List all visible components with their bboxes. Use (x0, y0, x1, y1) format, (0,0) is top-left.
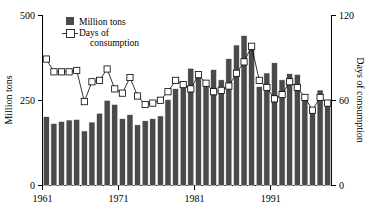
right-axis-title: Days of consumption (355, 57, 366, 143)
bar (43, 117, 49, 186)
data-point-marker (241, 59, 247, 65)
bar (180, 87, 186, 186)
data-point-marker (96, 77, 102, 83)
bar (256, 87, 262, 186)
bar (233, 45, 239, 185)
data-point-marker (271, 96, 277, 102)
data-point-marker (218, 87, 224, 93)
chart-legend: Million tons Days of consumption (62, 17, 139, 48)
data-point-marker (66, 69, 72, 75)
bar (218, 80, 224, 186)
bar (249, 49, 255, 185)
line-series-days-of-consumption (46, 46, 327, 110)
bar (119, 119, 125, 186)
bar (157, 116, 163, 186)
legend-swatch-million-tons (66, 17, 74, 25)
data-point-marker (119, 90, 125, 96)
bar (203, 81, 209, 185)
data-point-marker (195, 72, 201, 78)
bar (74, 119, 80, 185)
bar (150, 119, 156, 186)
data-point-marker (279, 91, 285, 97)
data-point-marker (89, 79, 95, 85)
data-point-marker (104, 66, 110, 72)
bar (142, 121, 148, 186)
data-point-marker (256, 77, 262, 83)
legend-swatch-days-of-consumption (67, 30, 75, 38)
bar (97, 113, 103, 185)
data-point-marker (294, 84, 300, 90)
bar (104, 100, 110, 185)
bar (165, 100, 171, 186)
bar (287, 74, 293, 186)
data-point-marker (180, 82, 186, 88)
data-point-marker (249, 43, 255, 49)
data-point-marker (43, 56, 49, 62)
bar (317, 90, 323, 185)
data-point-marker (317, 94, 323, 100)
x-axis-tick-label: 1971 (109, 193, 129, 204)
bar (211, 70, 217, 186)
data-point-marker (226, 83, 232, 89)
data-point-marker (81, 99, 87, 105)
bar (195, 73, 201, 186)
bar-series-million-tons (43, 35, 330, 185)
bar (112, 104, 118, 185)
chart-canvas: 500 250 0 Million tons 120 60 0 Days of … (0, 0, 367, 213)
left-axis-tick-label-250: 250 (20, 95, 35, 106)
data-point-marker (127, 74, 133, 80)
data-point-marker (287, 79, 293, 85)
data-point-marker (309, 107, 315, 113)
bar (173, 89, 179, 186)
legend-label-million-tons: Million tons (79, 17, 126, 27)
bar (309, 109, 315, 185)
x-axis-tick-label: 1991 (261, 193, 281, 204)
days-of-consumption-line (46, 46, 327, 110)
bar (271, 63, 277, 186)
right-axis-tick-label-60: 60 (339, 95, 349, 106)
bar (127, 115, 133, 186)
data-point-marker (325, 100, 331, 106)
x-axis-tick-label: 1961 (33, 193, 53, 204)
data-point-marker (165, 89, 171, 95)
right-axis-tick-label-0: 0 (339, 180, 344, 191)
legend-label-days-of-consumption-line1: Days of (79, 28, 110, 38)
bar (81, 131, 87, 186)
left-axis-title: Million tons (3, 75, 14, 124)
data-point-marker (112, 86, 118, 92)
right-axis-tick-label-120: 120 (339, 10, 354, 21)
data-point-marker (172, 77, 178, 83)
data-point-marker (142, 101, 148, 107)
data-point-marker (264, 84, 270, 90)
bar (325, 102, 331, 185)
data-point-marker (211, 89, 217, 95)
bar (294, 74, 300, 185)
left-axis-tick-label-0: 0 (30, 180, 35, 191)
bar (66, 120, 72, 185)
x-axis-tick-label: 1981 (185, 193, 205, 204)
legend-label-days-of-consumption-line2: consumption (90, 38, 139, 48)
data-point-marker (74, 67, 80, 73)
data-point-marker (233, 70, 239, 76)
bar (51, 123, 57, 185)
left-axis: 500 250 0 Million tons (3, 10, 43, 191)
data-point-marker (203, 80, 209, 86)
data-point-marker (157, 97, 163, 103)
data-point-marker (51, 69, 57, 75)
x-axis-ticks: 1961197119811991 (33, 186, 281, 204)
left-axis-tick-label-500: 500 (20, 10, 35, 21)
x-axis: 1961197119811991 (33, 186, 332, 204)
data-point-marker (150, 100, 156, 106)
right-axis: 120 60 0 Days of consumption (332, 10, 367, 191)
data-point-marker (58, 69, 64, 75)
bar (302, 97, 308, 186)
bar (58, 121, 64, 185)
bar (89, 122, 95, 185)
data-point-marker (302, 94, 308, 100)
data-point-marker (134, 93, 140, 99)
bar (226, 59, 232, 186)
chart-figure: 500 250 0 Million tons 120 60 0 Days of … (0, 0, 367, 213)
data-point-marker (188, 86, 194, 92)
bar (135, 125, 141, 186)
